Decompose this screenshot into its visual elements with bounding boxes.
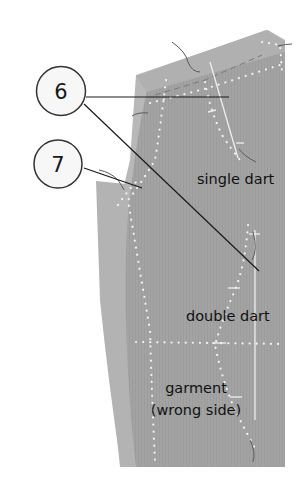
callout-7-number: 7 [51, 153, 64, 177]
garment-label-line1: garment [165, 380, 227, 396]
callout-7: 7 [34, 140, 82, 188]
double-dart-label: double dart [186, 308, 270, 324]
garment-label-line2: (wrong side) [151, 402, 241, 418]
callout-6-number: 6 [54, 80, 67, 104]
callout-6: 6 [37, 67, 86, 116]
single-dart-label: single dart [197, 171, 275, 187]
dart-diagram: 6 7 single dart double dart garment (wro… [0, 0, 305, 488]
